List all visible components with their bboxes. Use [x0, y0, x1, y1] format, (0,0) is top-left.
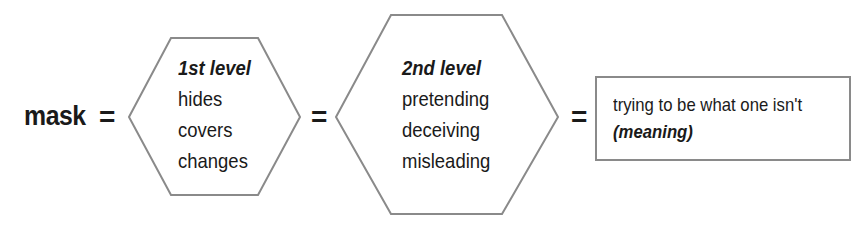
level-2-item: pretending	[402, 83, 490, 114]
level-1-item: hides	[178, 83, 251, 114]
level-2-item: misleading	[402, 145, 490, 176]
meaning-label: (meaning)	[613, 118, 802, 145]
term-word: mask	[24, 101, 86, 132]
level-2-heading: 2nd level	[402, 52, 490, 83]
level-1-item: covers	[178, 114, 251, 145]
level-1-heading: 1st level	[178, 52, 251, 83]
equals-sign-1: =	[99, 103, 115, 131]
meaning-content: trying to be what one isn't (meaning)	[613, 91, 802, 145]
equals-sign-3: =	[571, 103, 587, 131]
meaning-text: trying to be what one isn't	[613, 91, 802, 118]
level-2-item: deceiving	[402, 114, 490, 145]
level-2-content: 2nd level pretending deceiving misleadin…	[402, 52, 490, 176]
equals-sign-2: =	[311, 103, 327, 131]
level-1-content: 1st level hides covers changes	[178, 52, 251, 176]
level-1-item: changes	[178, 145, 251, 176]
